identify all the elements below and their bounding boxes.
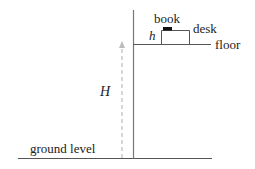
arrow-head-icon [119,41,125,48]
h-label: h [149,29,156,42]
diagram-canvas: book desk floor h H ground level [0,0,255,169]
H-label: H [100,85,110,99]
book-shape [163,27,172,31]
ground-level-label: ground level [30,142,95,155]
desk-label: desk [193,22,217,35]
floor-label: floor [215,38,240,51]
book-label: book [154,12,180,25]
desk-shape [162,31,190,45]
